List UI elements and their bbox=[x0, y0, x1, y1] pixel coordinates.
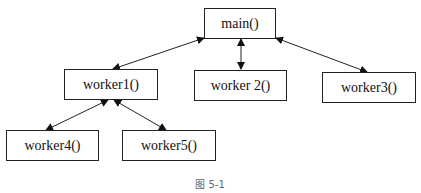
node-label: worker5() bbox=[141, 138, 197, 154]
edge-main-worker3 bbox=[276, 38, 367, 72]
node-worker4: worker4() bbox=[6, 130, 99, 161]
node-label: worker3() bbox=[341, 80, 397, 96]
edge-main-worker1 bbox=[113, 38, 204, 69]
node-label: worker4() bbox=[25, 138, 81, 154]
node-worker3: worker3() bbox=[322, 72, 416, 103]
node-worker2: worker 2() bbox=[194, 70, 287, 101]
edge-worker1-worker5 bbox=[114, 100, 166, 130]
node-worker5: worker5() bbox=[122, 130, 216, 161]
node-label: worker 2() bbox=[211, 78, 270, 94]
figure-caption: 图 5-1 bbox=[190, 176, 230, 191]
node-label: main() bbox=[221, 16, 258, 32]
node-main: main() bbox=[204, 8, 276, 39]
node-worker1: worker1() bbox=[64, 69, 158, 100]
node-label: worker1() bbox=[83, 77, 139, 93]
edge-worker1-worker4 bbox=[46, 100, 108, 130]
